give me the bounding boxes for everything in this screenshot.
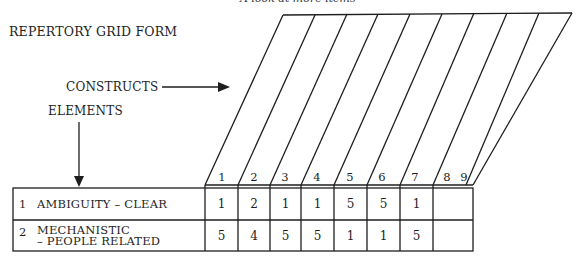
column-number: 3	[275, 170, 295, 184]
grid-cell: 1	[301, 188, 334, 220]
column-number: 4	[307, 170, 327, 184]
column-number: 6	[372, 170, 392, 184]
row-number: 1	[19, 197, 26, 211]
column-number: 2	[244, 170, 264, 184]
row-label-line2: – PEOPLE RELATED	[37, 236, 160, 247]
column-number: 5	[340, 170, 360, 184]
grid-cell: 5	[205, 220, 238, 251]
elements-arrowhead-icon	[74, 176, 84, 187]
grid-cell: 5	[301, 220, 334, 251]
constructs-arrowhead-icon	[218, 82, 230, 92]
grid-cell: 4	[238, 220, 270, 251]
row-label: AMBIGUITY – CLEAR	[37, 199, 167, 210]
grid-cell: 5	[400, 220, 433, 251]
column-number: 7	[405, 170, 425, 184]
grid-cell: 1	[367, 220, 400, 251]
grid-cell: 2	[238, 188, 270, 220]
column-number: 1	[212, 170, 232, 184]
grid-cell: 1	[400, 188, 433, 220]
grid-cell: 5	[367, 188, 400, 220]
grid-cell: 5	[334, 188, 367, 220]
grid-cell: 1	[270, 188, 301, 220]
column-number: 9	[454, 170, 474, 184]
grid-cell: 5	[270, 220, 301, 251]
grid-cell: 1	[205, 188, 238, 220]
grid-cell: 1	[334, 220, 367, 251]
row-number: 2	[19, 225, 26, 239]
